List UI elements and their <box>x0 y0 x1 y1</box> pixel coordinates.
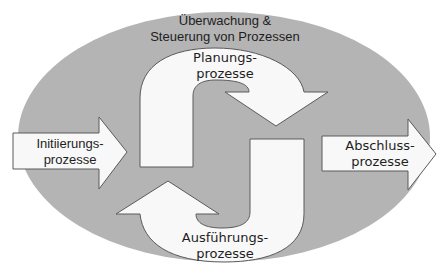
initiating-label: Initiierungs- prozesse <box>20 136 120 168</box>
execution-label-line1: Ausführungs- <box>175 230 275 246</box>
monitoring-label-line2: Steuerung von Prozessen <box>150 29 300 45</box>
closing-label-line1: Abschluss- <box>330 138 430 154</box>
execution-label: Ausführungs- prozesse <box>175 230 275 262</box>
monitoring-label-line1: Überwachung & <box>150 13 300 29</box>
monitoring-controlling-label: Überwachung & Steuerung von Prozessen <box>150 13 300 45</box>
execution-label-line2: prozesse <box>175 246 275 262</box>
closing-label: Abschluss- prozesse <box>330 138 430 170</box>
closing-label-line2: prozesse <box>330 154 430 170</box>
initiating-label-line2: prozesse <box>20 152 120 168</box>
planning-label-line2: prozesse <box>180 66 270 82</box>
planning-label-line1: Planungs- <box>180 50 270 66</box>
planning-label: Planungs- prozesse <box>180 50 270 82</box>
initiating-label-line1: Initiierungs- <box>20 136 120 152</box>
